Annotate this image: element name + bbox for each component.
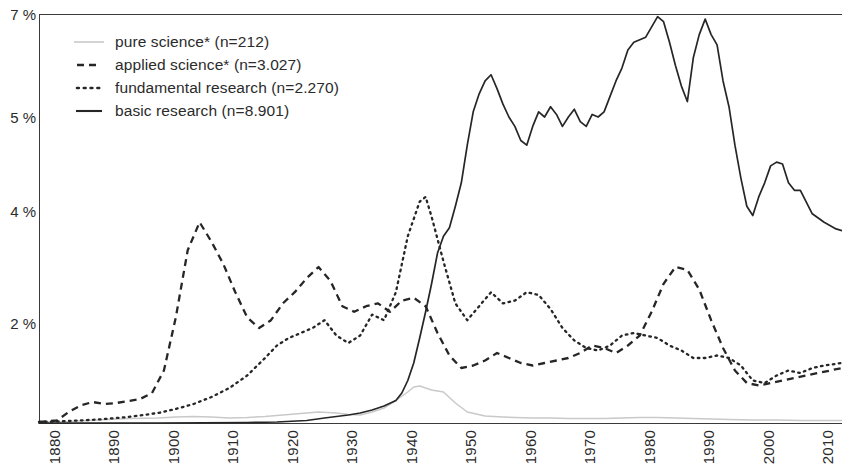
solid-line-icon (72, 104, 106, 118)
x-axis-tick-1900: 1900 (165, 430, 182, 464)
chart-legend: pure science* (n=212)applied science* (n… (72, 30, 339, 122)
x-axis-tick-1940: 1940 (403, 430, 420, 464)
x-axis-tick-1920: 1920 (284, 430, 301, 464)
legend-item-label: basic research (n=8.901) (115, 102, 289, 120)
x-axis-tick-1990: 1990 (700, 430, 717, 464)
y-axis-tick-4: 4 % (0, 203, 36, 220)
x-axis-tick-1890: 1890 (105, 430, 122, 464)
y-axis-tick-2: 2 % (0, 315, 36, 332)
legend-item-label: fundamental research (n=2.270) (115, 79, 339, 97)
x-axis-tick-1960: 1960 (522, 430, 539, 464)
x-axis-tick-2010: 2010 (819, 430, 836, 464)
legend-item[interactable]: fundamental research (n=2.270) (72, 76, 339, 99)
legend-item-label: applied science* (n=3.027) (115, 56, 302, 74)
x-axis-tick-1950: 1950 (462, 430, 479, 464)
x-axis-tick-1930: 1930 (343, 430, 360, 464)
legend-item[interactable]: pure science* (n=212) (72, 30, 339, 53)
y-axis-tick-7: 7 % (0, 6, 36, 23)
series-line-fundamental-research (39, 197, 842, 422)
thin-line-gray-icon (72, 35, 106, 49)
y-axis-tick-5: 5 % (0, 109, 36, 126)
x-axis-tick-1880: 1880 (46, 430, 63, 464)
legend-item[interactable]: applied science* (n=3.027) (72, 53, 339, 76)
x-axis-tick-1970: 1970 (581, 430, 598, 464)
x-axis-tick-1910: 1910 (224, 430, 241, 464)
dashed-line-icon (72, 58, 106, 72)
legend-item-label: pure science* (n=212) (115, 33, 269, 51)
x-axis-tick-2000: 2000 (760, 430, 777, 464)
series-line-pure-science (39, 386, 842, 422)
line-chart: 7 %5 %4 %2 % 188018901900191019201930194… (0, 0, 842, 474)
dotted-line-icon (72, 81, 106, 95)
x-axis-tick-1980: 1980 (641, 430, 658, 464)
legend-item[interactable]: basic research (n=8.901) (72, 99, 339, 122)
